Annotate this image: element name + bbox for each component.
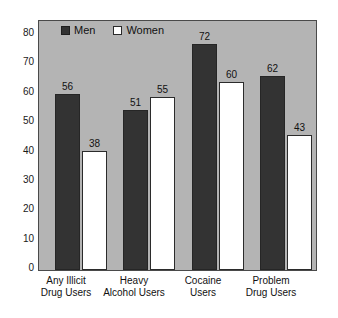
bar-men: 72 (192, 44, 217, 270)
bar-value-women: 38 (89, 139, 100, 149)
bar-men: 51 (123, 110, 148, 270)
y-tick-label: 50 (8, 116, 34, 126)
y-tick-label: 10 (8, 234, 34, 244)
bars-layer: 56 38 51 55 72 6 (39, 21, 316, 270)
bar-value-men: 56 (62, 82, 73, 92)
bar-group: 72 60 (190, 21, 246, 270)
bar-group: 56 38 (53, 21, 109, 270)
y-tick-label: 20 (8, 204, 34, 214)
bar-women: 55 (150, 97, 175, 270)
y-tick-label: 0 (8, 263, 34, 273)
bar-value-women: 60 (226, 70, 237, 80)
bar-men: 62 (260, 76, 285, 271)
bar-chart: 80 70 60 50 40 30 20 10 0 Men Women (0, 0, 338, 318)
filled-square-icon (61, 26, 70, 35)
category-label-line: Heavy (94, 275, 174, 287)
legend: Men Women (61, 25, 164, 36)
y-tick-label: 40 (8, 146, 34, 156)
bar-value-women: 55 (157, 85, 168, 95)
bar-women: 60 (219, 82, 244, 270)
outlined-square-icon (113, 26, 122, 35)
y-tick-label: 30 (8, 175, 34, 185)
bar-value-men: 51 (130, 98, 141, 108)
bar-men: 56 (55, 94, 80, 270)
bar-value-women: 43 (294, 123, 305, 133)
bar-women: 38 (82, 151, 107, 270)
bar-group: 62 43 (258, 21, 314, 270)
bar-value-men: 62 (267, 64, 278, 74)
bar-women: 43 (287, 135, 312, 270)
category-label: Problem Drug Users (231, 275, 311, 299)
category-label: Heavy Alcohol Users (94, 275, 174, 299)
category-label-line: Problem (231, 275, 311, 287)
category-label-line: Drug Users (231, 287, 311, 299)
category-label-line: Alcohol Users (94, 287, 174, 299)
legend-label-women: Women (126, 25, 164, 36)
y-tick-label: 60 (8, 87, 34, 97)
legend-item-women: Women (113, 25, 164, 36)
plot-area: Men Women 56 38 51 (38, 20, 317, 271)
y-tick-label: 80 (8, 28, 34, 38)
bar-group: 51 55 (121, 21, 177, 270)
legend-label-men: Men (74, 25, 95, 36)
legend-item-men: Men (61, 25, 95, 36)
bar-value-men: 72 (199, 32, 210, 42)
y-tick-label: 70 (8, 57, 34, 67)
